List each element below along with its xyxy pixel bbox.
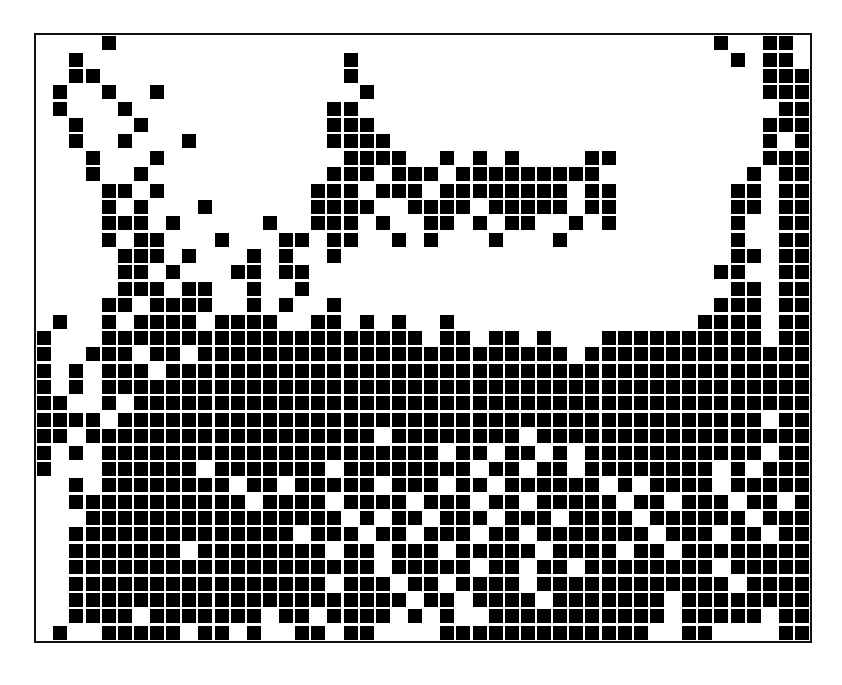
occurrence-matrix-canvas (36, 35, 810, 641)
label-fragment-3: t (0, 79, 12, 96)
label-fragment-1: e (0, 45, 12, 62)
plot-frame (34, 33, 812, 643)
figure-root: s e s t (0, 0, 842, 685)
label-fragment-0: s (0, 28, 12, 45)
label-fragment-2: s (0, 62, 12, 79)
clipped-axis-label-fragments: s e s t (0, 28, 12, 98)
